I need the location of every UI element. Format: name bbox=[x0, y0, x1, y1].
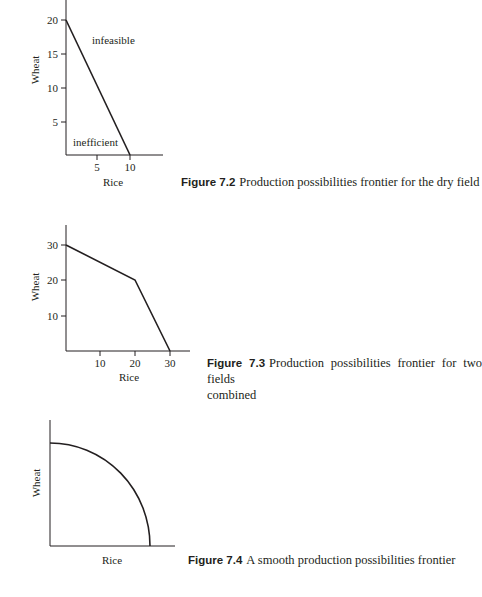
y-axis-label: Wheat bbox=[30, 469, 42, 498]
figure-7-4-chart: Rice Wheat bbox=[0, 0, 482, 597]
x-axis-label: Rice bbox=[102, 554, 122, 566]
figure-label: Figure 7.4 bbox=[188, 554, 242, 566]
ppf-curve bbox=[50, 443, 150, 546]
caption-text: A smooth production possibilities fronti… bbox=[246, 553, 455, 567]
figure-7-4-caption: Figure 7.4A smooth production possibilit… bbox=[188, 552, 455, 568]
